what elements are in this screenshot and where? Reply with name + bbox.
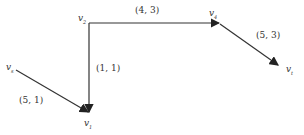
node-vt: vt	[286, 64, 293, 76]
edge-label-v2-v1: (1, 1)	[96, 63, 120, 73]
edge-label-vs-v1: (5, 1)	[19, 95, 43, 105]
edge-vs-v1	[16, 70, 88, 112]
node-v2: v2	[78, 13, 86, 25]
node-v4: v4	[209, 8, 217, 20]
node-v1: v1	[84, 118, 92, 130]
edge-label-v4-vt: (5, 3)	[256, 30, 280, 40]
network-edges	[0, 0, 304, 135]
edge-label-v2-v4: (4, 3)	[135, 5, 159, 15]
node-vs: vs	[6, 62, 14, 74]
